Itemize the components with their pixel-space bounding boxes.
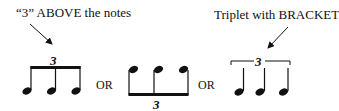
tuplet-number-bracket: 3 — [255, 55, 262, 68]
separator-or-2: OR — [198, 79, 215, 91]
tuplet-bracket-left — [231, 61, 254, 65]
tuplet-bracket-right — [265, 61, 290, 65]
triplet-group-number-above — [21, 66, 82, 96]
beam — [129, 93, 189, 96]
label-number-above: “3” ABOVE the notes — [16, 6, 131, 19]
arrow-to-number-above — [30, 24, 52, 44]
arrow-to-bracket — [268, 27, 288, 48]
tuplet-number-above: 3 — [50, 54, 57, 67]
tuplet-number-below: 3 — [153, 98, 160, 111]
separator-or-1: OR — [96, 79, 113, 91]
triplet-group-number-below — [128, 64, 190, 96]
label-bracket: Triplet with BRACKET — [214, 8, 339, 21]
